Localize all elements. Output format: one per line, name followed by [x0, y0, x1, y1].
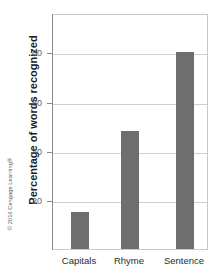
y-axis-tick-label: 80: [12, 49, 42, 58]
x-axis-category-label: Sentence: [144, 255, 222, 266]
bar: [71, 212, 89, 249]
y-axis-tick-label: 60: [12, 99, 42, 108]
copyright-notice: © 2016 Cengage Learning®: [4, 156, 16, 232]
y-axis-tick-label: 20: [12, 197, 42, 206]
y-axis-tick-label: 40: [12, 148, 42, 157]
bar: [121, 131, 139, 249]
bar: [176, 52, 194, 249]
bar-chart-figure: © 2016 Cengage Learning® Percentage of w…: [0, 0, 222, 275]
plot-area: [52, 14, 208, 250]
